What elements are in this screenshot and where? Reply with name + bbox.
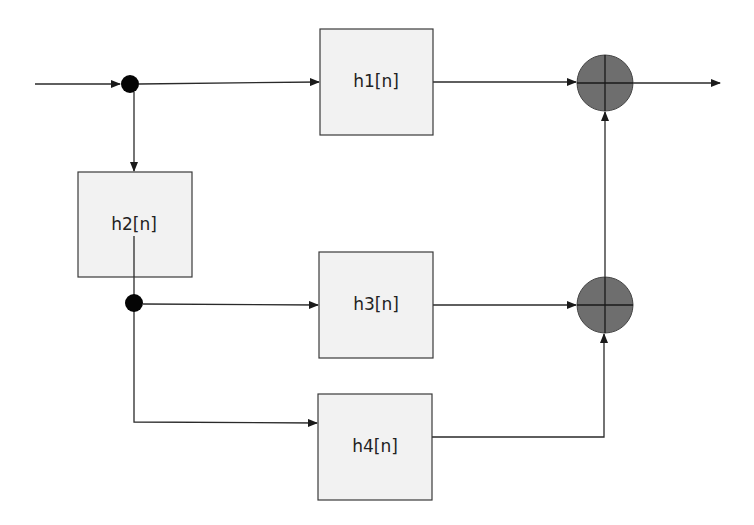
summer-2 — [577, 277, 633, 333]
block-h2-label: h2[n] — [111, 214, 157, 234]
wire-h4-to-sum2 — [432, 334, 604, 437]
block-h3-label: h3[n] — [353, 294, 399, 314]
wire-j2-to-h4 — [134, 310, 317, 423]
block-h1: h1[n] — [320, 29, 433, 135]
summer-1 — [577, 55, 633, 111]
block-diagram: h1[n] h2[n] h3[n] h4[n] — [0, 0, 754, 525]
junction-dot-1 — [121, 75, 139, 93]
wire-j2-to-h3 — [143, 304, 318, 305]
junction-dot-2 — [125, 294, 143, 312]
block-h4-label: h4[n] — [352, 436, 398, 456]
block-h1-label: h1[n] — [353, 71, 399, 91]
block-h3: h3[n] — [319, 252, 433, 358]
block-h4: h4[n] — [318, 394, 432, 500]
wire-j1-to-h1 — [139, 82, 319, 84]
block-h2: h2[n] — [78, 172, 192, 277]
